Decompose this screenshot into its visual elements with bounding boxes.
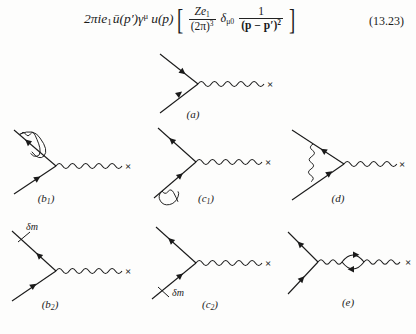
photon-line — [196, 160, 262, 165]
diagram-c1-label: (c1) — [186, 192, 226, 206]
equation-prefix: 2πie1 — [84, 11, 112, 27]
diagram-d-label: (d) — [318, 192, 358, 206]
diagram-b1-label: (b1) — [26, 192, 66, 206]
equation-kronecker-delta: δμ0 — [221, 11, 235, 26]
equation-fraction-coupling: Ze1 (2π)3 — [189, 6, 216, 32]
fermion-line-out — [160, 54, 198, 84]
counterterm-cross-stroke — [158, 287, 169, 297]
diagram-a-label: (a) — [173, 108, 213, 120]
diagram-c2: δm × (c2) — [148, 221, 276, 301]
diagram-e: × (e) — [286, 226, 416, 302]
photon-line-right — [364, 260, 400, 265]
equation-spinor-ubar: ū(p′)γμ — [113, 11, 148, 27]
external-source-cross-d: × — [399, 158, 405, 170]
external-source-cross-c2: × — [265, 257, 271, 269]
arrow-head-in — [175, 89, 184, 98]
fermion-line-out — [12, 231, 56, 271]
equation-expression: 2πie1 ū(p′)γμ u(p) [ Ze1 (2π)3 δμ0 1 (p … — [84, 6, 298, 32]
photon-line — [56, 269, 122, 274]
diagram-b1-svg — [8, 124, 136, 194]
diagram-e-label: (e) — [328, 296, 368, 310]
equation-row: 2πie1 ū(p′)γμ u(p) [ Ze1 (2π)3 δμ0 1 (p … — [0, 0, 416, 46]
self-energy-loop-lower — [159, 191, 179, 204]
diagram-b2-svg — [8, 221, 136, 301]
external-source-cross-c1: × — [265, 156, 271, 168]
bubble-arrow-lower — [348, 266, 354, 272]
diagram-c2-svg — [148, 221, 276, 301]
external-source-cross-e: × — [405, 256, 411, 268]
external-source-cross-a: × — [267, 78, 273, 90]
equation-number: (13.23) — [369, 14, 404, 29]
diagram-b2-label: (b2) — [30, 298, 70, 312]
fermion-line-out — [292, 130, 344, 164]
equation-fraction-propagator: 1 (p − p′)2 — [239, 6, 283, 31]
diagram-d-svg — [286, 124, 414, 200]
photon-line — [198, 82, 264, 87]
equation-spinor-u: u(p) — [151, 11, 174, 27]
diagram-b1: × (b1) — [8, 124, 136, 194]
delta-m-label-c2: δm — [172, 287, 184, 298]
equation-bracket-open: [ — [177, 7, 183, 30]
external-source-cross-b1: × — [125, 160, 131, 172]
photon-line — [56, 164, 122, 169]
diagram-c1-svg — [148, 124, 276, 200]
self-energy-wave-lower — [162, 190, 178, 202]
photon-line — [344, 162, 397, 167]
external-source-cross-b2: × — [125, 265, 131, 277]
diagram-c2-label: (c2) — [190, 298, 230, 312]
fermion-line-out — [288, 232, 318, 262]
vertex-correction-photon — [308, 144, 314, 182]
propagator-denominator: (p − p′)2 — [239, 18, 283, 31]
arrow-head-out — [319, 146, 328, 155]
counterterm-cross-stroke — [18, 232, 30, 242]
equation-bracket-close: ] — [289, 7, 295, 30]
diagram-b2: δm × (b2) — [8, 221, 136, 301]
propagator-numerator: 1 — [256, 6, 266, 18]
diagram-a-svg — [150, 50, 280, 112]
arrow-head-in — [33, 174, 42, 183]
delta-m-label-b2: δm — [26, 221, 38, 232]
fraction-denominator: (2π)3 — [189, 19, 216, 32]
diagram-e-svg — [286, 226, 416, 302]
fermion-line-out — [158, 128, 196, 162]
diagram-a: × (a) — [150, 50, 280, 112]
diagram-c1: × (c1) — [148, 124, 276, 200]
figure-area: × (a) × (b1) × (c1) — [0, 46, 416, 334]
fraction-numerator: Ze1 — [192, 6, 211, 19]
diagram-d: × (d) — [286, 124, 414, 200]
photon-line-left — [318, 260, 342, 265]
photon-line — [196, 261, 262, 266]
fermion-line-out — [156, 227, 196, 263]
